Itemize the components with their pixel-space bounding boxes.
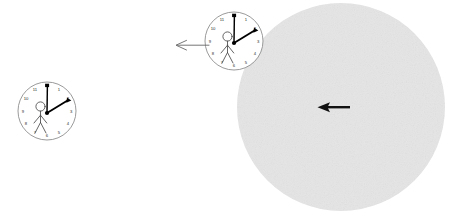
diagram-canvas: 1 2 3 4 5 6 7 8 9 10 11: [0, 0, 460, 214]
clock-far: [18, 82, 76, 140]
clock-near: [205, 12, 263, 70]
arrow-from-clock-icon: [176, 40, 209, 50]
